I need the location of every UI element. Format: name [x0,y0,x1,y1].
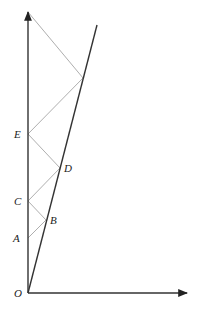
label-point-B: B [50,214,57,226]
reflection-diagram: O A B C D E [0,0,198,317]
zigzag-reflection-path [28,12,83,238]
label-point-C: C [14,195,22,207]
label-origin-O: O [14,287,22,299]
label-point-D: D [63,162,72,174]
label-point-A: A [12,232,20,244]
slanted-line [28,25,97,293]
label-point-E: E [13,128,21,140]
